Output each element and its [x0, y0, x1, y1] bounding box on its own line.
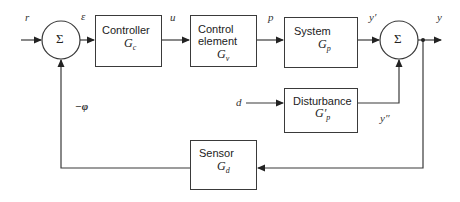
controller-block: Controller Gc [95, 15, 162, 67]
block-diagram: Σ Σ Controller Gc Control element Gv Sys… [0, 0, 460, 202]
disturbance-tf: G′p [315, 106, 330, 122]
branch-point [421, 38, 425, 42]
controller-label: Controller [102, 24, 150, 36]
signal-neg-phi: −φ [75, 100, 88, 112]
signal-y: y [437, 11, 442, 23]
control-element-label-1: Control [198, 23, 233, 35]
signal-u: u [170, 11, 176, 23]
control-element-label-2: element [198, 35, 237, 47]
signal-p: p [268, 11, 274, 23]
control-element-block: Control element Gv [190, 15, 257, 67]
sensor-tf: Gd [217, 159, 230, 175]
system-label: System [294, 25, 331, 37]
sensor-block: Sensor Gd [190, 140, 257, 190]
signal-epsilon: ε [81, 10, 85, 22]
controller-tf: Gc [124, 36, 136, 52]
signal-r: r [25, 11, 29, 23]
system-block: System Gp [284, 17, 358, 68]
signal-d: d [236, 96, 242, 108]
disturbance-block: Disturbance G′p [284, 88, 358, 133]
signal-y-double-prime: y″ [380, 112, 389, 124]
control-element-tf: Gv [217, 47, 229, 63]
signal-y-prime: y′ [369, 11, 376, 23]
sensor-label: Sensor [199, 147, 234, 159]
system-tf: Gp [318, 37, 331, 53]
summing-junction-1: Σ [56, 31, 64, 47]
summing-junction-2: Σ [394, 31, 402, 47]
